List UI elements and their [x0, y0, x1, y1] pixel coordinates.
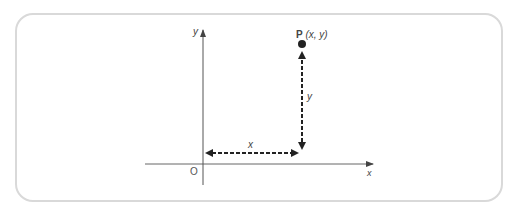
point-label: P (x, y): [296, 30, 328, 40]
origin-label: O: [190, 167, 198, 177]
y-distance-arrow: [298, 51, 306, 150]
y-distance-label: y: [307, 92, 312, 102]
y-axis-label: y: [193, 27, 198, 37]
x-distance-label: x: [248, 140, 253, 150]
point-p: [298, 40, 306, 48]
point-coords: (x, y): [305, 29, 327, 40]
point-name: P: [296, 29, 303, 40]
x-distance-arrow: [205, 149, 299, 157]
x-axis-label: x: [367, 169, 372, 178]
coordinate-diagram: [0, 0, 519, 211]
